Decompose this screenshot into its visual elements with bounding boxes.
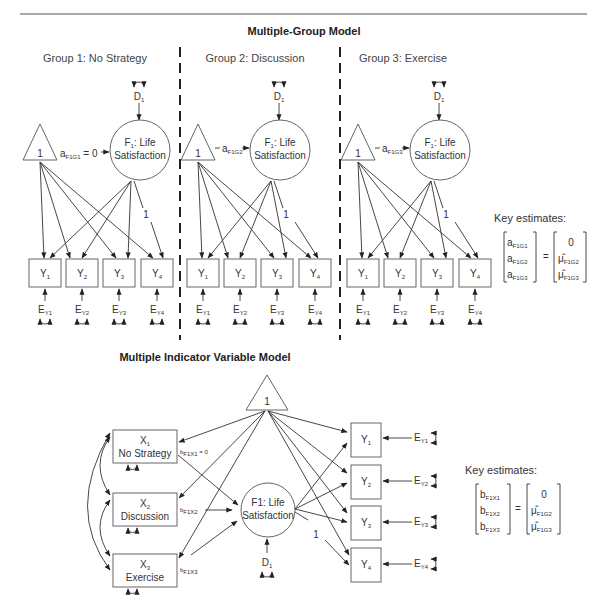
svg-text:1: 1 [283, 209, 289, 220]
group-3-panel: Group 3: Exercise D1 F1: Life Satisfacti… [341, 52, 491, 324]
svg-text:μ̂F1G2: μ̂F1G2 [531, 505, 552, 517]
svg-text:1: 1 [355, 148, 361, 159]
svg-text:EY4: EY4 [150, 304, 165, 316]
fixed-loading-label: 1 [143, 209, 149, 220]
svg-text:Satisfaction: Satisfaction [254, 150, 306, 161]
svg-text:EY4: EY4 [308, 304, 323, 316]
svg-text:Discussion: Discussion [121, 511, 169, 522]
path-a-label: aF1G1 = 0 [60, 148, 98, 160]
group-2-label: Group 2: Discussion [205, 52, 304, 64]
svg-text:Key estimates:: Key estimates: [494, 212, 566, 224]
error-terms: EY1 EY2 EY3 EY4 [38, 289, 165, 324]
svg-text:μ̂F1G3: μ̂F1G3 [531, 521, 552, 533]
path-b-x3-label: bF1X3 [180, 567, 198, 575]
mimic-indicator-y4: Y4 [351, 548, 381, 582]
svg-text:EY4: EY4 [414, 558, 429, 570]
key-estimates-mimic: Key estimates: bF1X1 bF1X2 bF1X3 = 0 μ̂F… [465, 464, 560, 534]
svg-text:μ̂F1G2: μ̂F1G2 [558, 253, 579, 265]
svg-text:1: 1 [195, 148, 201, 159]
svg-text:EY3: EY3 [112, 304, 127, 316]
svg-text:bF1X2: bF1X2 [480, 505, 501, 517]
svg-text:1: 1 [37, 148, 43, 159]
svg-text:EY2: EY2 [233, 304, 248, 316]
svg-text:1: 1 [313, 529, 319, 540]
svg-text:1: 1 [264, 396, 270, 407]
svg-text:aF1G1: aF1G1 [507, 237, 528, 249]
svg-text:EY3: EY3 [414, 516, 429, 528]
svg-text:EY2: EY2 [75, 304, 90, 316]
svg-text:F1: Life: F1: Life [124, 137, 156, 149]
group-3-label: Group 3: Exercise [359, 52, 447, 64]
path-b-x2-label: bF1X2 [180, 507, 198, 515]
svg-text:1: 1 [443, 209, 449, 220]
indicator-y3: Y3 [103, 259, 135, 287]
svg-text:D1: D1 [274, 91, 285, 103]
group-1-label: Group 1: No Strategy [43, 52, 147, 64]
key-estimates-group: Key estimates: aF1G1 aF1G2 aF1G3 = 0 μ̂F… [494, 212, 586, 282]
svg-text:Satisfaction: Satisfaction [242, 510, 294, 521]
svg-text:Exercise: Exercise [126, 572, 165, 583]
predictor-x1: X1 No Strategy [113, 430, 177, 463]
svg-text:EY1: EY1 [414, 432, 429, 444]
svg-text:Satisfaction: Satisfaction [114, 150, 166, 161]
svg-text:0: 0 [568, 237, 574, 248]
group-2-panel: Group 2: Discussion D1 F1: Life Satisfac… [181, 52, 331, 324]
predictor-x2: X2 Discussion [113, 493, 177, 526]
svg-text:EY3: EY3 [430, 304, 445, 316]
svg-text:Satisfaction: Satisfaction [414, 150, 466, 161]
mimic-title: Multiple Indicator Variable Model [119, 351, 290, 363]
svg-text:EY1: EY1 [356, 304, 371, 316]
svg-text:EY4: EY4 [468, 304, 483, 316]
svg-text:No Strategy: No Strategy [119, 448, 172, 459]
mimic-indicator-y1: Y1 [351, 423, 381, 457]
svg-text:0: 0 [541, 489, 547, 500]
svg-text:aF1G2: aF1G2 [222, 143, 243, 155]
svg-text:EY1: EY1 [38, 304, 53, 316]
mimic-panel: 1 X1 No Strategy X2 Discussion X3 Exerci… [88, 375, 437, 594]
svg-text:bF1X3: bF1X3 [480, 521, 501, 533]
svg-text:aF1G2: aF1G2 [507, 253, 528, 265]
svg-text:aF1G3: aF1G3 [382, 143, 403, 155]
svg-text:F1: Life: F1: Life [251, 497, 285, 508]
indicator-y2: Y2 [66, 259, 98, 287]
svg-text:D1: D1 [434, 91, 445, 103]
svg-text:Key estimates:: Key estimates: [465, 464, 537, 476]
svg-text:EY2: EY2 [393, 304, 408, 316]
svg-text:μ̂F1G3: μ̂F1G3 [558, 269, 579, 281]
multiple-group-title: Multiple-Group Model [247, 25, 360, 37]
svg-text:EY1: EY1 [196, 304, 211, 316]
svg-text:=: = [515, 503, 521, 514]
svg-text:bF1X1: bF1X1 [480, 489, 501, 501]
group-1-panel: Group 1: No Strategy D1 F1: Life Satisfa… [23, 52, 173, 324]
disturbance-label: D1 [134, 91, 145, 103]
path-b-x1-label: bF1X1 = 0 [180, 449, 209, 457]
indicator-y4: Y4 [141, 259, 173, 287]
mimic-indicator-y3: Y3 [351, 506, 381, 540]
svg-text:F1: Life: F1: Life [424, 137, 456, 149]
svg-text:EY3: EY3 [270, 304, 285, 316]
svg-text:EY2: EY2 [414, 475, 429, 487]
svg-text:F1: Life: F1: Life [264, 137, 296, 149]
svg-text:=: = [543, 251, 549, 262]
predictor-x3: X3 Exercise [113, 554, 177, 587]
d1-variance-icon [134, 82, 144, 87]
sem-diagram: Multiple-Group Model Group 1: No Strateg… [0, 0, 609, 611]
indicator-y1: Y1 [29, 259, 61, 287]
svg-text:D1: D1 [262, 557, 273, 569]
mimic-indicator-y2: Y2 [351, 465, 381, 499]
svg-text:aF1G3: aF1G3 [507, 269, 528, 281]
